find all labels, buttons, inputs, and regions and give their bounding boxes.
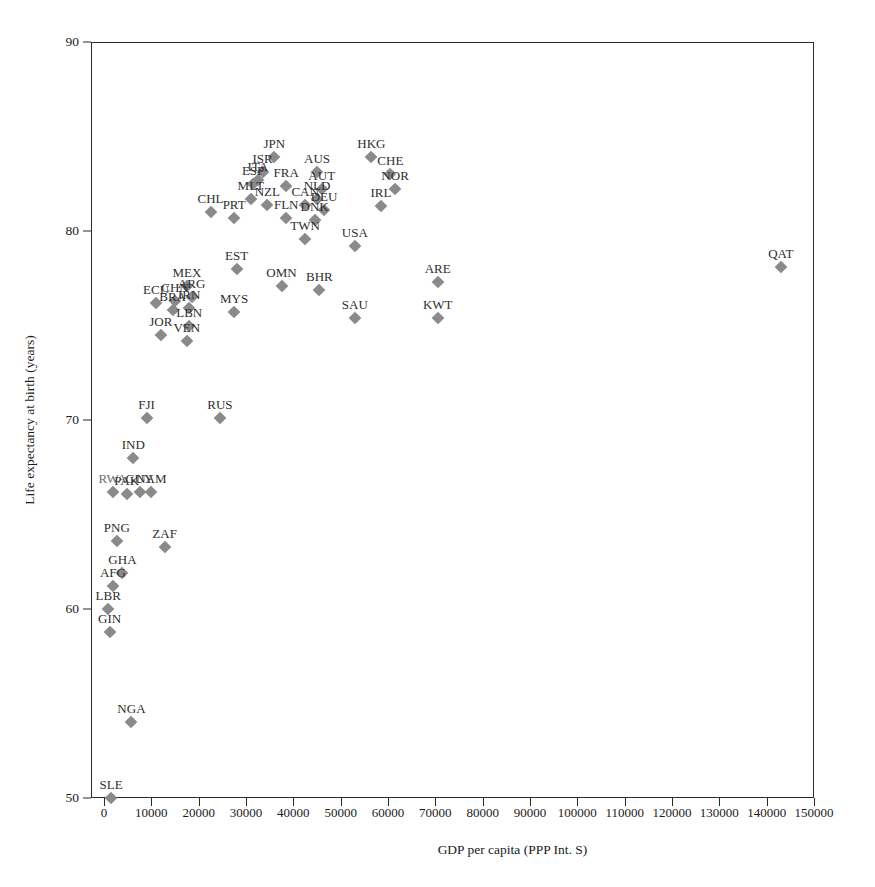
x-axis-tick-label: 70000 bbox=[419, 806, 452, 819]
y-axis-tickmark bbox=[83, 420, 91, 421]
x-axis-tickmark bbox=[341, 798, 342, 806]
x-axis-tick-label: 0 bbox=[101, 806, 108, 819]
x-axis-tick-label: 140000 bbox=[747, 806, 786, 819]
y-axis-tickmark bbox=[83, 609, 91, 610]
data-point-label: CHL bbox=[198, 192, 224, 205]
y-axis-tick-label: 70 bbox=[39, 413, 79, 427]
scatter-chart: 9080706050 01000020000300004000050000600… bbox=[0, 0, 875, 887]
data-point-label: LBR bbox=[96, 589, 121, 602]
x-axis-tickmark bbox=[625, 798, 626, 806]
data-point-label: FRA bbox=[274, 166, 299, 179]
data-point-label: RUS bbox=[207, 398, 232, 411]
x-axis-tick-label: 30000 bbox=[230, 806, 263, 819]
data-point-label: EST bbox=[225, 249, 248, 262]
data-point-label: ARE bbox=[425, 262, 451, 275]
x-axis-tickmark bbox=[435, 798, 436, 806]
x-axis-tick-label: 150000 bbox=[795, 806, 834, 819]
data-point-label: LBN bbox=[176, 306, 202, 319]
data-point-label: JPN bbox=[264, 137, 286, 150]
y-axis-tick-label: 90 bbox=[39, 35, 79, 49]
data-point-label: ZAF bbox=[152, 527, 177, 540]
data-point-label: IRL bbox=[370, 186, 391, 199]
data-point-label: FLN bbox=[274, 198, 299, 211]
data-point-label: PAK bbox=[114, 474, 139, 487]
x-axis-tickmark bbox=[388, 798, 389, 806]
y-axis-tick-label: 50 bbox=[39, 791, 79, 805]
data-point-label: VEN bbox=[173, 321, 200, 334]
data-point-label: NAM bbox=[136, 472, 166, 485]
x-axis-tickmark bbox=[293, 798, 294, 806]
data-point-label: BHR bbox=[306, 270, 333, 283]
data-point-label: TWN bbox=[290, 219, 320, 232]
x-axis-tick-label: 130000 bbox=[700, 806, 739, 819]
x-axis-tick-label: 80000 bbox=[466, 806, 499, 819]
data-point-label: DNK bbox=[301, 200, 329, 213]
y-axis-tickmark bbox=[83, 42, 91, 43]
data-point-label: JOR bbox=[149, 315, 172, 328]
y-axis-tick-label: 80 bbox=[39, 224, 79, 238]
data-point-label: AFG bbox=[100, 566, 126, 579]
data-point-label: PRT bbox=[223, 198, 246, 211]
data-point-label: IND bbox=[122, 438, 145, 451]
x-axis-tick-label: 50000 bbox=[324, 806, 357, 819]
x-axis-tick-label: 90000 bbox=[514, 806, 547, 819]
x-axis-tickmark bbox=[246, 798, 247, 806]
data-point-label: GIN bbox=[98, 612, 121, 625]
x-axis-tick-label: 10000 bbox=[135, 806, 168, 819]
x-axis-tickmark bbox=[672, 798, 673, 806]
data-point-label: SAU bbox=[342, 298, 368, 311]
data-point-label: USA bbox=[342, 226, 368, 239]
x-axis-tick-label: 20000 bbox=[182, 806, 215, 819]
x-axis-tickmark bbox=[483, 798, 484, 806]
x-axis-tick-label: 110000 bbox=[605, 806, 644, 819]
data-point-label: SLE bbox=[100, 778, 123, 791]
x-axis-tickmark bbox=[577, 798, 578, 806]
data-point-label: FJI bbox=[138, 398, 155, 411]
x-axis-tickmark bbox=[530, 798, 531, 806]
data-point-label: IRN bbox=[178, 288, 200, 301]
x-axis-title: GDP per capita (PPP Int. S) bbox=[0, 842, 875, 858]
x-axis-tick-label: 60000 bbox=[372, 806, 405, 819]
data-point-label: MYS bbox=[220, 292, 248, 305]
data-point-label: NZL bbox=[255, 185, 280, 198]
y-axis-tick-container: 9080706050 bbox=[0, 0, 79, 887]
x-axis-tick-label: 120000 bbox=[653, 806, 692, 819]
data-point-label: OMN bbox=[266, 266, 296, 279]
x-axis-tickmark bbox=[199, 798, 200, 806]
y-axis-tick-label: 60 bbox=[39, 602, 79, 616]
data-point-label: KWT bbox=[423, 298, 453, 311]
data-point-label: NOR bbox=[381, 169, 408, 182]
data-point-label: GHA bbox=[108, 553, 136, 566]
x-axis-tick-label: 100000 bbox=[558, 806, 597, 819]
data-point-label: PNG bbox=[104, 521, 130, 534]
x-axis-tickmark bbox=[767, 798, 768, 806]
x-axis-tickmark bbox=[814, 798, 815, 806]
data-point-label: AUS bbox=[304, 152, 330, 165]
data-point-label: ESP bbox=[242, 164, 264, 177]
plot-area-frame bbox=[91, 42, 814, 798]
y-axis-tickmark bbox=[83, 798, 91, 799]
y-axis-title: Life expectancy at birth (years) bbox=[22, 335, 38, 504]
data-point-label: HKG bbox=[357, 137, 385, 150]
data-point-label: QAT bbox=[768, 247, 793, 260]
x-axis-tickmark bbox=[151, 798, 152, 806]
y-axis-tickmark bbox=[83, 231, 91, 232]
x-axis-tickmark bbox=[719, 798, 720, 806]
x-axis-tick-label: 40000 bbox=[277, 806, 310, 819]
data-point-label: NGA bbox=[117, 702, 145, 715]
data-point-label: CHE bbox=[377, 154, 403, 167]
